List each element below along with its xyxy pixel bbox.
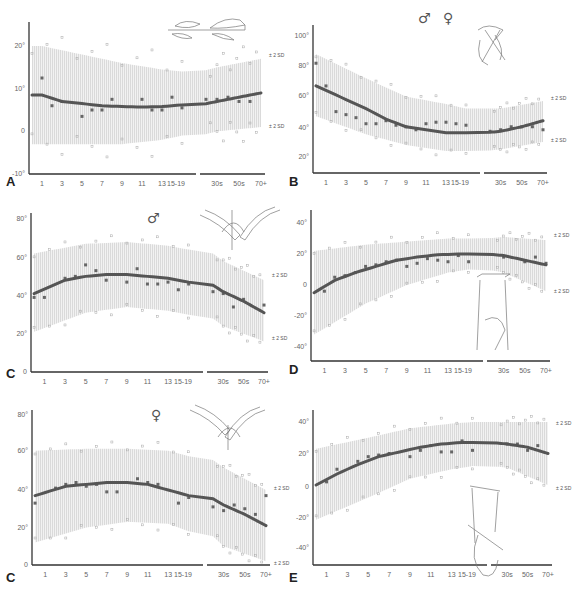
individual-point (248, 560, 250, 562)
female-symbol-icon: ♀ (151, 407, 161, 423)
sd-annotation: ± 2 SD (269, 123, 285, 129)
x-tick-label: 15-19 (174, 571, 192, 578)
y-tick-label: 40° (17, 486, 28, 493)
individual-point (390, 83, 392, 85)
individual-point (157, 441, 159, 443)
individual-point (242, 46, 244, 48)
individual-point (236, 57, 238, 59)
individual-point (49, 448, 51, 450)
individual-point (522, 235, 524, 237)
individual-point (440, 417, 442, 419)
individual-point (247, 265, 249, 267)
y-tick-label: -40° (294, 343, 307, 350)
individual-point (543, 484, 545, 486)
individual-point (259, 341, 261, 343)
individual-point (390, 144, 392, 146)
mean-point (405, 265, 408, 268)
individual-point (228, 257, 230, 259)
individual-point (223, 140, 225, 142)
individual-point (157, 236, 159, 238)
figure-canvas: 20°10°0-10°13579111315-1930s50s70+± 2 SD… (0, 0, 575, 589)
individual-point (531, 415, 533, 417)
individual-point (509, 232, 511, 234)
panel-letter: C (6, 366, 16, 381)
panel-letter: B (289, 174, 298, 189)
mean-point (177, 288, 180, 291)
x-tick-label: 50s (519, 367, 531, 374)
x-tick-label: 3 (64, 571, 68, 578)
x-tick-label: 7 (104, 378, 108, 385)
individual-point (229, 552, 231, 554)
x-tick-label: 1 (42, 378, 46, 385)
individual-point (425, 476, 427, 478)
individual-point (519, 146, 521, 148)
mean-point (325, 84, 328, 87)
individual-point (261, 561, 263, 563)
mean-point (333, 276, 336, 279)
individual-point (188, 244, 190, 246)
individual-point (506, 102, 508, 104)
mean-point (467, 260, 470, 263)
x-tick-label: 13 (448, 571, 456, 578)
individual-point (61, 36, 63, 38)
x-tick-label: 50s (516, 179, 528, 186)
individual-point (91, 146, 93, 148)
mean-point (440, 450, 443, 453)
x-tick-label: 3 (343, 367, 347, 374)
mean-point (177, 502, 180, 505)
y-tick-label: 60° (17, 447, 28, 454)
individual-point (390, 296, 392, 298)
x-tick-label: 5 (364, 179, 368, 186)
mean-point (161, 109, 164, 112)
y-tick-label: 0 (305, 483, 309, 490)
x-tick-label: 5 (364, 367, 368, 374)
individual-point (440, 476, 442, 478)
individual-point (247, 340, 249, 342)
y-tick-label: 40° (298, 418, 309, 425)
y-tick-label: 20° (14, 42, 25, 49)
sd-annotation: ± 2 SD (556, 420, 572, 426)
y-tick-label: 20° (298, 153, 309, 160)
mean-point (254, 513, 257, 516)
y-tick-label: 80° (298, 62, 309, 69)
y-tick-label: 20° (296, 250, 307, 257)
mean-point (265, 494, 268, 497)
individual-point (229, 464, 231, 466)
mean-point (181, 106, 184, 109)
mean-point (171, 96, 174, 99)
individual-point (95, 240, 97, 242)
individual-point (375, 137, 377, 139)
individual-point (106, 44, 108, 46)
y-tick-label: -20° (296, 514, 309, 521)
sd-band (35, 449, 266, 562)
mean-point (151, 109, 154, 112)
individual-point (142, 445, 144, 447)
individual-point (157, 316, 159, 318)
individual-point (216, 64, 218, 66)
x-tick-label: 5 (366, 571, 370, 578)
x-tick-label: 50s (239, 571, 251, 578)
mean-point (233, 504, 236, 507)
individual-point (49, 248, 51, 250)
mean-point (416, 262, 419, 265)
y-tick-label: 10° (14, 85, 25, 92)
mean-point (408, 455, 411, 458)
x-tick-label: 30s (502, 571, 514, 578)
x-tick-label: 50s (238, 378, 250, 385)
x-tick-label: 7 (384, 179, 388, 186)
x-tick-label: 11 (144, 378, 151, 385)
sd-annotation: ± 2 SD (554, 232, 570, 238)
mean-point (367, 455, 370, 458)
mean-point (436, 259, 439, 262)
mean-point (41, 77, 44, 80)
y-tick-label: 80° (17, 411, 28, 418)
panel-letter: C (6, 570, 16, 585)
x-tick-label: 11 (427, 571, 434, 578)
x-tick-label: 5 (84, 571, 88, 578)
y-tick-label: 0 (24, 561, 28, 568)
individual-point (151, 49, 153, 51)
x-tick-label: 15-19 (167, 180, 185, 187)
mean-point (94, 269, 97, 272)
female-symbol-icon: ♀ (443, 10, 453, 26)
x-tick-label: 15-19 (451, 179, 469, 186)
